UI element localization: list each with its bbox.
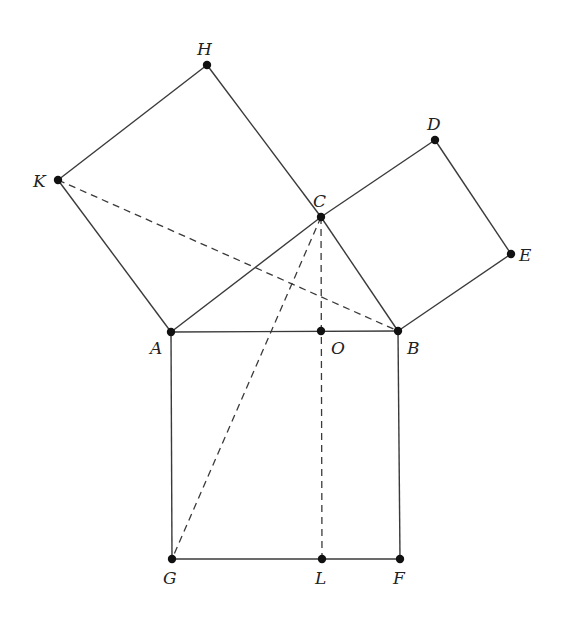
point-H — [203, 61, 211, 69]
pythagorean-diagram: HKDCEAOBGLF — [0, 0, 561, 619]
label-F: F — [392, 568, 406, 588]
label-C: C — [313, 191, 326, 211]
label-O: O — [331, 338, 345, 358]
label-A: A — [148, 338, 162, 358]
segment-KH — [58, 65, 207, 180]
segment-DE — [435, 140, 511, 254]
label-K: K — [32, 171, 47, 191]
dashed-segments — [58, 180, 398, 559]
points — [54, 61, 515, 563]
point-B — [394, 327, 402, 335]
point-labels: HKDCEAOBGLF — [32, 39, 532, 588]
label-H: H — [196, 39, 213, 59]
segment-AG — [171, 332, 172, 559]
segment-EB — [398, 254, 511, 331]
label-D: D — [426, 114, 441, 134]
point-O — [317, 327, 325, 335]
point-K — [54, 176, 62, 184]
point-A — [167, 328, 175, 336]
label-L: L — [314, 568, 326, 588]
point-D — [431, 136, 439, 144]
segment-AB — [171, 331, 398, 332]
segment-HC — [207, 65, 321, 217]
segment-FB — [398, 331, 400, 559]
point-F — [396, 555, 404, 563]
label-E: E — [518, 245, 532, 265]
segment-AC — [171, 217, 321, 332]
solid-segments — [58, 65, 511, 559]
dashed-segment-CG — [172, 217, 321, 559]
point-E — [507, 250, 515, 258]
point-G — [168, 555, 176, 563]
segment-AK — [58, 180, 171, 332]
dashed-segment-CL — [321, 217, 322, 559]
segment-CD — [321, 140, 435, 217]
label-G: G — [163, 568, 177, 588]
point-L — [318, 555, 326, 563]
point-C — [317, 213, 325, 221]
label-B: B — [406, 338, 420, 358]
